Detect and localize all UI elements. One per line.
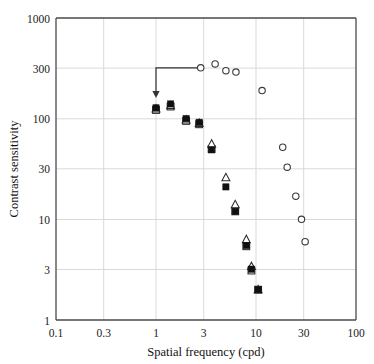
x-tick-10: 10	[250, 327, 262, 339]
marker-filled-square	[168, 101, 174, 107]
contrast-sensitivity-figure: 1000 300 100 30 10 3 1 0.1 0.3 1 3 10 30…	[0, 0, 374, 364]
marker-filled-square	[223, 184, 229, 190]
y-axis-title: Contrast sensitivity	[7, 120, 21, 218]
marker-filled-square	[153, 105, 159, 111]
marker-filled-square	[243, 242, 249, 248]
x-tick-100: 100	[347, 327, 365, 339]
marker-open-circle	[212, 61, 218, 67]
x-tick-1: 1	[153, 327, 159, 339]
y-tick-100: 100	[33, 113, 51, 125]
y-tick-1: 1	[44, 315, 50, 327]
marker-open-circle	[259, 87, 265, 93]
x-tick-30: 30	[298, 327, 310, 339]
marker-filled-square	[232, 208, 238, 214]
marker-filled-square	[196, 119, 202, 125]
chart-svg: 1000 300 100 30 10 3 1 0.1 0.3 1 3 10 30…	[0, 0, 374, 364]
y-tick-10: 10	[39, 214, 51, 226]
marker-filled-square	[183, 116, 189, 122]
marker-filled-square	[255, 287, 261, 293]
marker-open-circle	[198, 65, 204, 71]
x-tick-labels: 0.1 0.3 1 3 10 30 100	[49, 327, 365, 339]
marker-filled-square	[209, 147, 215, 153]
x-axis-title: Spatial frequency (cpd)	[147, 345, 264, 359]
y-tick-labels: 1000 300 100 30 10 3 1	[27, 13, 50, 327]
marker-open-circle	[302, 238, 308, 244]
marker-open-circle	[284, 164, 290, 170]
marker-open-circle	[233, 69, 239, 75]
marker-open-circle	[298, 216, 304, 222]
y-tick-1000: 1000	[27, 13, 50, 25]
marker-open-circle	[293, 193, 299, 199]
x-tick-0-1: 0.1	[49, 327, 64, 339]
x-tick-0-3: 0.3	[97, 327, 112, 339]
marker-filled-square	[248, 266, 254, 272]
y-tick-300: 300	[33, 63, 51, 75]
y-tick-30: 30	[39, 163, 51, 175]
x-tick-3: 3	[201, 327, 207, 339]
y-tick-3: 3	[44, 264, 50, 276]
marker-open-circle	[223, 67, 229, 73]
marker-open-circle	[280, 144, 286, 150]
